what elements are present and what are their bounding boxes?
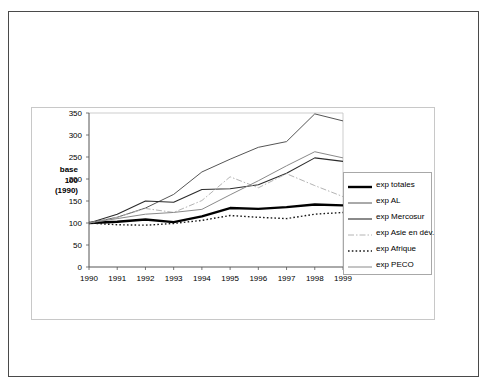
x-tick-label: 1991 [108, 274, 126, 283]
legend-swatch-icon [348, 227, 372, 239]
chart-legend: exp totalesexp ALexp Mercosurexp Asie en… [343, 172, 432, 275]
x-tick-label: 1992 [137, 274, 155, 283]
x-tick-label: 1994 [193, 274, 211, 283]
y-tick-label: 250 [69, 153, 83, 162]
y-tick-label: 0 [78, 263, 83, 272]
legend-item[interactable]: exp AL [344, 192, 431, 209]
page-frame: base 100 (1990) 050100150200250300350 19… [8, 11, 479, 377]
legend-item[interactable]: exp PECO [344, 256, 431, 273]
legend-item-label: exp Mercosur [376, 212, 424, 221]
legend-item[interactable]: exp Mercosur [344, 208, 431, 225]
line-chart: base 100 (1990) 050100150200250300350 19… [32, 108, 436, 321]
legend-item-label: exp PECO [376, 260, 414, 269]
legend-item[interactable]: exp Afrique [344, 240, 431, 257]
y-tick-label: 300 [69, 131, 83, 140]
x-tick-label: 1997 [278, 274, 296, 283]
x-tick-label: 1999 [334, 274, 352, 283]
y-tick-label: 200 [69, 175, 83, 184]
y-tick-labels: 050100150200250300350 [69, 109, 83, 272]
legend-swatch-icon [348, 195, 372, 207]
y-tick-label: 100 [69, 219, 83, 228]
legend-swatch-icon [348, 179, 372, 191]
x-tick-labels: 1990199119921993199419951996199719981999 [80, 274, 352, 283]
x-tick-label: 1990 [80, 274, 98, 283]
legend-item[interactable]: exp Asie en dév. [344, 224, 431, 241]
legend-item-label: exp totales [376, 180, 415, 189]
x-tick-label: 1998 [306, 274, 324, 283]
legend-item-label: exp Afrique [376, 244, 416, 253]
y-tick-label: 50 [73, 241, 82, 250]
x-tick-label: 1995 [221, 274, 239, 283]
series-lines [89, 114, 343, 225]
legend-swatch-icon [348, 259, 372, 271]
y-tick-label: 150 [69, 197, 83, 206]
x-tick-label: 1996 [249, 274, 267, 283]
legend-swatch-icon [348, 211, 372, 223]
legend-swatch-icon [348, 243, 372, 255]
chart-container: base 100 (1990) 050100150200250300350 19… [31, 107, 435, 320]
x-tick-label: 1993 [165, 274, 183, 283]
axis-lines [89, 113, 343, 267]
legend-item-label: exp Asie en dév. [376, 228, 434, 237]
legend-item[interactable]: exp totales [344, 176, 431, 193]
legend-item-label: exp AL [376, 196, 400, 205]
y-tick-label: 350 [69, 109, 83, 118]
